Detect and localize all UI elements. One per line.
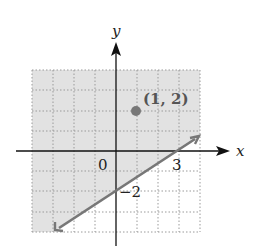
point-label: (1, 2) [143,90,189,108]
test-point [131,106,141,116]
y-axis-label: y [111,22,121,40]
y-intercept-label: −2 [119,183,141,201]
coordinate-graph: y x 0 3 −2 (1, 2) [0,0,254,252]
x-axis-label: x [236,142,245,160]
x-intercept-label: 3 [172,156,182,174]
origin-label: 0 [98,156,108,174]
